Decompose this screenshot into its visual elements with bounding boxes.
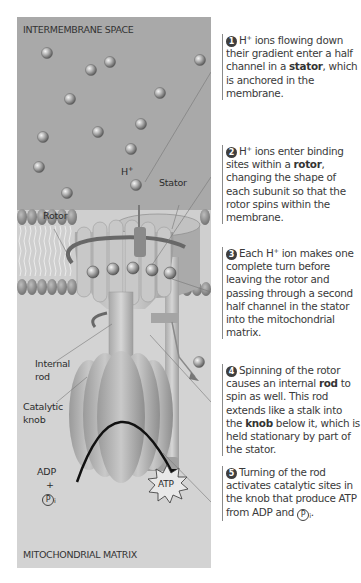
half-channel <box>134 227 146 257</box>
atp-label: ATP <box>158 478 174 491</box>
adp-label: ADP <box>37 465 56 478</box>
step-number-badge: 5 <box>226 468 237 479</box>
atp-synthase-diagram: INTERMEMBRANE SPACE MITOCHONDRIAL MATRIX… <box>17 17 211 568</box>
h-ion-exiting <box>194 357 205 368</box>
step-2: 2H+ ions enter binding sites within a ro… <box>222 145 360 224</box>
step-number-badge: 1 <box>226 36 237 47</box>
internal-rod-label: Internalrod <box>35 357 70 383</box>
step-5: 5Turning of the rod activates catalytic … <box>222 466 360 521</box>
intermembrane-space-label: INTERMEMBRANE SPACE <box>23 24 134 35</box>
step-number-badge: 4 <box>226 366 237 377</box>
step-number-badge: 2 <box>226 147 237 158</box>
h-ion-entering <box>131 180 142 191</box>
mitochondrial-matrix-label: MITOCHONDRIAL MATRIX <box>23 549 137 560</box>
phosphate-label: Pi <box>42 491 56 506</box>
catalytic-knob-label: Catalyticknob <box>23 400 63 426</box>
step-number-badge: 3 <box>226 249 237 260</box>
h-ion-label: H+ <box>121 165 133 178</box>
rotor-label: Rotor <box>43 209 67 222</box>
stator-label: Stator <box>159 176 187 189</box>
step-3: 3Each H+ ion makes one complete turn bef… <box>222 247 360 339</box>
step-4: 4Spinning of the rotor causes an interna… <box>222 364 360 456</box>
step-1: 1H+ ions flowing down their gradient ent… <box>222 34 360 100</box>
plus-sign: + <box>46 478 54 491</box>
